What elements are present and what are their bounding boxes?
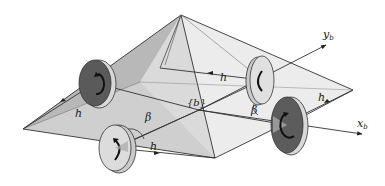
h-label-back: h: [220, 71, 227, 84]
rotor-left: [79, 60, 116, 108]
rotor-right: [271, 97, 308, 155]
h-label-right: h: [318, 91, 325, 104]
x-axis-label: xb: [357, 117, 368, 131]
rotor-front: [99, 125, 136, 173]
quadrotor-diagram: yb xb {b} β β h h h h: [0, 0, 385, 186]
y-axis-label: yb: [322, 28, 334, 42]
beta-label-right: β: [250, 104, 257, 117]
rotor-back: [246, 56, 274, 105]
body-frame-label: {b}: [187, 97, 206, 108]
beta-label-front: β: [144, 111, 151, 124]
h-label-front: h: [150, 140, 157, 153]
h-label-left: h: [75, 107, 82, 120]
